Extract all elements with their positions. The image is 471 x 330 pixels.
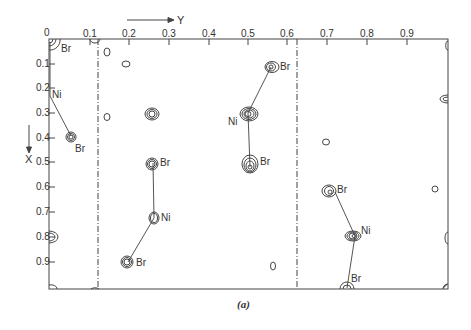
top-ticks — [90, 39, 407, 45]
atom-unlabeled-peak-1 — [145, 108, 159, 120]
y-axis-label: Y — [177, 15, 184, 25]
atom-label-ni: Ni — [52, 90, 61, 100]
atom-label-ni: Ni — [161, 213, 170, 223]
atom-ni-1 — [240, 107, 258, 121]
x-axis-label: X — [25, 154, 32, 164]
atom-label-br: Br — [61, 44, 71, 54]
y-tick-0.9: 0.9 — [400, 29, 414, 39]
y-tick-0.1: 0.1 — [83, 29, 97, 39]
bonds — [50, 42, 355, 288]
atom-label-ni: Ni — [361, 226, 370, 236]
y-tick-0.4: 0.4 — [202, 29, 216, 39]
x-tick-0.6: 0.6 — [36, 182, 50, 192]
atom-br-6 — [322, 185, 336, 197]
x-tick-0.9: 0.9 — [36, 257, 50, 267]
y-tick-0.2: 0.2 — [122, 29, 136, 39]
atom-br-origin — [49, 39, 60, 50]
y-tick-0.6: 0.6 — [280, 29, 294, 39]
minor-peaks — [49, 39, 448, 289]
x-tick-0.4: 0.4 — [36, 133, 50, 143]
atom-label-ni: Ni — [228, 117, 237, 127]
x-tick-0.5: 0.5 — [36, 157, 50, 167]
x-tick-0.2: 0.2 — [36, 83, 50, 93]
x-tick-0.1: 0.1 — [36, 59, 50, 69]
y-tick-0.3: 0.3 — [162, 29, 176, 39]
y-tick-0.5: 0.5 — [241, 29, 255, 39]
atom-br-4 — [146, 158, 158, 170]
atom-br-5 — [121, 256, 133, 268]
y-tick-0.7: 0.7 — [320, 29, 334, 39]
x-tick-0.8: 0.8 — [36, 232, 50, 242]
plot-frame — [49, 39, 448, 289]
figure-caption: (a) — [237, 298, 250, 310]
y-tick-0.8: 0.8 — [360, 29, 374, 39]
x-tick-0.3: 0.3 — [36, 108, 50, 118]
atom-label-br: Br — [160, 158, 170, 168]
atom-ni-3 — [345, 231, 361, 241]
atom-label-br: Br — [75, 144, 85, 154]
atom-label-br: Br — [280, 62, 290, 72]
y-tick-0: 0 — [44, 28, 50, 38]
atom-label-br: Br — [260, 157, 270, 167]
atom-label-br: Br — [337, 185, 347, 195]
atom-label-br: Br — [351, 274, 361, 284]
atom-label-br: Br — [136, 258, 146, 268]
x-tick-0.7: 0.7 — [36, 207, 50, 217]
atom-br-2 — [265, 62, 279, 73]
atom-br-1 — [66, 132, 76, 142]
